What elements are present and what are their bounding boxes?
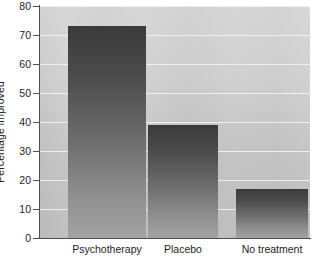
y-axis-tick-label: 80: [0, 0, 31, 12]
y-axis-tick-mark: [33, 122, 39, 123]
y-axis-tick-label: 60: [0, 58, 31, 70]
gridline: [40, 6, 310, 7]
x-axis-tick-label: No treatment: [212, 243, 313, 255]
y-axis-tick-mark: [33, 209, 39, 210]
y-axis-tick-mark: [33, 180, 39, 181]
bar: [236, 189, 308, 238]
y-axis-tick-mark: [33, 93, 39, 94]
y-axis-tick-mark: [33, 6, 39, 7]
x-axis-line: [39, 238, 311, 239]
y-axis-tick-label: 50: [0, 87, 31, 99]
y-axis-line: [39, 5, 40, 239]
y-axis-tick-label: 20: [0, 174, 31, 186]
y-axis-tick-mark: [33, 238, 39, 239]
plot-area: [40, 6, 310, 238]
bar-chart: Percentage improved 01020304050607080 Ps…: [0, 0, 313, 264]
y-axis-tick-mark: [33, 64, 39, 65]
bar: [68, 26, 146, 238]
y-axis-tick-mark: [33, 151, 39, 152]
y-axis-tick-label: 70: [0, 29, 31, 41]
y-axis-tick-mark: [33, 35, 39, 36]
y-axis-tick-label: 10: [0, 203, 31, 215]
y-axis-tick-label: 30: [0, 145, 31, 157]
bar: [148, 125, 218, 238]
y-axis-tick-label: 0: [0, 232, 31, 244]
y-axis-tick-label: 40: [0, 116, 31, 128]
